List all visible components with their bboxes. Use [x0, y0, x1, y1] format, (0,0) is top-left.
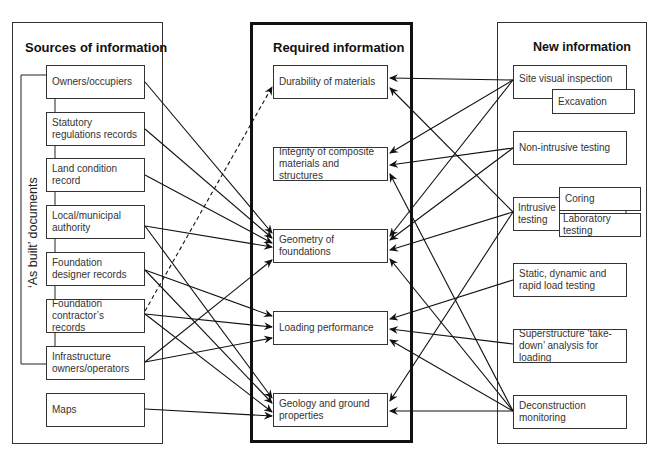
as-built-bracket	[21, 75, 626, 364]
connection-arrows	[0, 0, 663, 461]
